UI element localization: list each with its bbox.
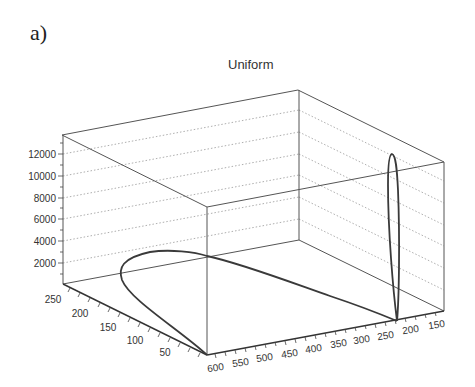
y-axis-ticks [68,288,200,357]
x-tick-label: 150 [427,318,445,331]
z-axis-ticks [58,143,63,274]
z-tick-label: 12000 [28,149,56,160]
x-tick-label: 600 [206,361,224,374]
y-tick-label: 50 [159,347,171,358]
trajectory-curve [121,154,399,355]
z-tick-label: 4000 [34,236,57,247]
chart-plot: 2000 4000 6000 8000 10000 12000 250 200 … [0,0,475,387]
z-tick-label: 6000 [34,214,57,225]
z-tick-label: 10000 [28,171,56,182]
x-tick-label: 400 [304,342,322,355]
gridlines-right-wall [299,110,444,290]
z-tick-label: 8000 [34,193,57,204]
gridlines-left-wall [63,110,299,263]
x-tick-label: 300 [352,333,370,346]
x-tick-label: 350 [329,337,347,350]
y-tick-label: 200 [72,308,89,319]
z-axis-labels: 2000 4000 6000 8000 10000 12000 [28,149,56,269]
z-tick-label: 2000 [34,258,57,269]
y-tick-label: 150 [100,322,117,333]
y-axis-labels: 250 200 150 100 50 [45,294,171,358]
x-axis-labels: 600 550 500 450 400 350 300 250 200 150 [206,318,445,374]
x-tick-label: 200 [401,323,419,336]
x-tick-label: 500 [255,351,273,364]
x-tick-label: 250 [376,329,394,342]
y-tick-label: 250 [45,294,62,305]
x-tick-label: 550 [231,356,249,369]
x-tick-label: 450 [280,347,298,360]
y-tick-label: 100 [127,335,144,346]
